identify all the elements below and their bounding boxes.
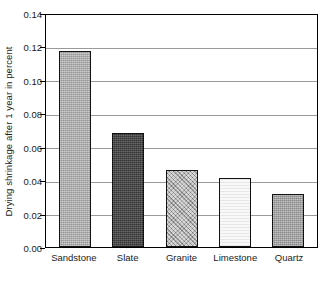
x-tick-label-limestone: Limestone [208, 252, 262, 263]
x-tick-label-quartz: Quartz [262, 252, 316, 263]
plot-area [45, 14, 318, 248]
x-tick-label-slate: Slate [101, 252, 155, 263]
bar-slate [112, 133, 144, 247]
bar-limestone [219, 178, 251, 247]
bar-slot [262, 15, 315, 247]
y-axis-title-text: Drying shrinkage after 1 year in percent [3, 46, 14, 216]
x-tick-label-granite: Granite [155, 252, 209, 263]
x-axis-tick-labels: SandstoneSlateGraniteLimestoneQuartz [45, 252, 318, 272]
y-tick-mark [40, 248, 45, 249]
bar-slot [208, 15, 261, 247]
y-axis-title: Drying shrinkage after 1 year in percent [0, 14, 16, 248]
bar-slot [48, 15, 101, 247]
bar-slot [101, 15, 154, 247]
bar-chart-figure: Drying shrinkage after 1 year in percent… [0, 0, 327, 283]
bars-layer [46, 15, 317, 247]
bar-quartz [272, 194, 304, 247]
bar-granite [166, 170, 198, 247]
bar-sandstone [59, 51, 91, 247]
x-tick-label-sandstone: Sandstone [47, 252, 101, 263]
bar-slot [155, 15, 208, 247]
